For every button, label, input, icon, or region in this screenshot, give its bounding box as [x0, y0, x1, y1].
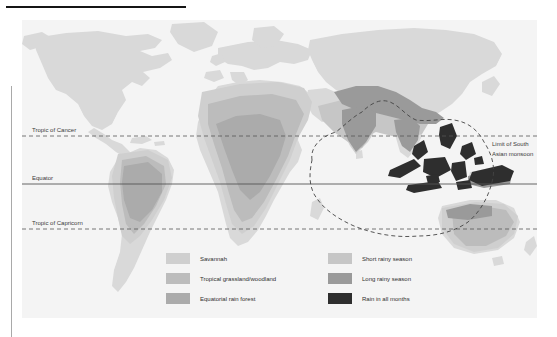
legend-label-savannah: Savannah — [200, 256, 227, 262]
monsoon-limit-label-line2: Asian monsoon — [492, 151, 533, 157]
legend-swatch-long-rainy-season — [328, 273, 352, 284]
legend-swatch-equatorial-rainforest — [166, 293, 190, 304]
top-divider-rule — [6, 6, 186, 8]
legend-swatch-savannah — [166, 253, 190, 264]
monsoon-limit-label-line1: Limit of South — [492, 141, 529, 147]
tropic-of-cancer-label: Tropic of Cancer — [32, 127, 76, 133]
tropic-of-capricorn-label: Tropic of Capricorn — [32, 220, 83, 226]
legend-swatch-tropical-grassland — [166, 273, 190, 284]
legend-label-long-rainy-season: Long rainy season — [362, 276, 411, 282]
left-margin-rule — [11, 86, 12, 337]
climate-map-figure: Tropic of Cancer Equator Tropic of Capri… — [0, 0, 557, 337]
legend-label-short-rainy-season: Short rainy season — [362, 256, 412, 262]
legend-label-tropical-grassland: Tropical grassland/woodland — [200, 276, 276, 282]
legend-swatch-rain-all-months — [328, 293, 352, 304]
legend-swatch-short-rainy-season — [328, 253, 352, 264]
equator-label: Equator — [32, 175, 53, 181]
world-map-plate: Tropic of Cancer Equator Tropic of Capri… — [22, 20, 537, 318]
legend-label-rain-all-months: Rain in all months — [362, 296, 410, 302]
legend-label-equatorial-rainforest: Equatorial rain forest — [200, 296, 256, 302]
